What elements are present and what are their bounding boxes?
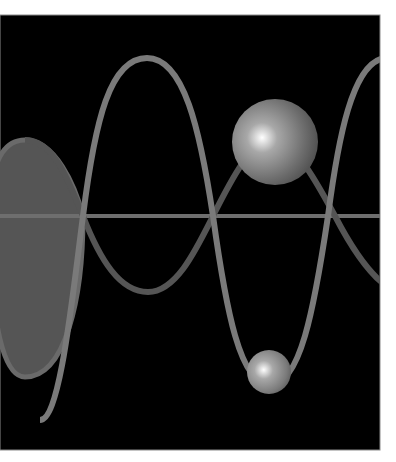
wave-illustration [0,0,396,462]
large-sphere [232,99,318,185]
small-sphere [247,350,291,394]
